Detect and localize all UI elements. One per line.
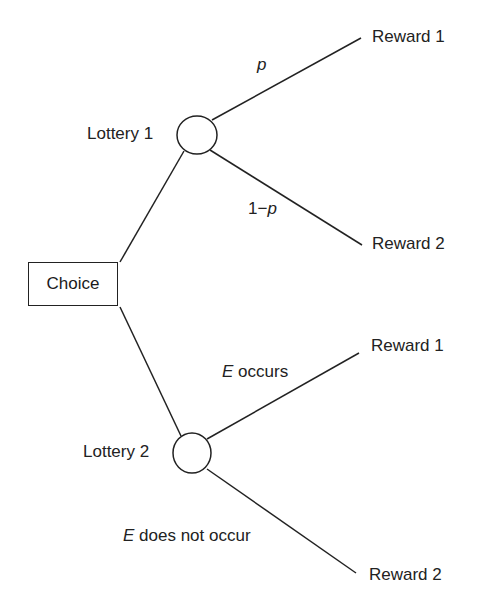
prob-prefix: 1− xyxy=(248,199,267,218)
prob-var: p xyxy=(267,199,276,218)
edge-lottery1-reward1 xyxy=(212,38,361,120)
outcome-lottery2-reward1: Reward 1 xyxy=(371,336,444,356)
outcome-lottery1-reward2: Reward 2 xyxy=(372,234,445,254)
edge-choice-lottery1 xyxy=(120,151,184,262)
lottery1-label: Lottery 1 xyxy=(87,124,153,144)
edge-lottery2-reward2 xyxy=(207,469,356,573)
lottery2-label: Lottery 2 xyxy=(83,442,149,462)
branch-prob-p: p xyxy=(257,55,266,75)
edge-lottery1-reward2 xyxy=(210,150,362,245)
edge-choice-lottery2 xyxy=(120,307,181,436)
branch-e-occurs: E occurs xyxy=(222,362,288,382)
outcome-lottery1-reward1: Reward 1 xyxy=(372,27,445,47)
outcome-lottery2-reward2: Reward 2 xyxy=(369,565,442,585)
branch-e-does-not-occur: E does not occur xyxy=(123,526,251,546)
event-var: E xyxy=(222,362,233,381)
lottery2-chance-node xyxy=(173,433,211,473)
event-var: E xyxy=(123,526,134,545)
branch-prob-1-minus-p: 1−p xyxy=(248,199,277,219)
event-text: does not occur xyxy=(134,526,250,545)
lottery1-chance-node xyxy=(177,116,217,154)
choice-decision-node: Choice xyxy=(28,262,118,306)
event-text: occurs xyxy=(233,362,288,381)
choice-label: Choice xyxy=(47,274,100,294)
